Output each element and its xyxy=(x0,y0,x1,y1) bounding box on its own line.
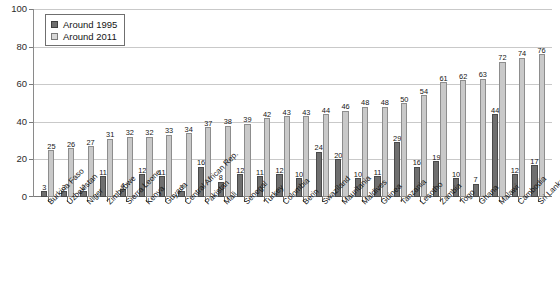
bar-around-2011: 33 xyxy=(166,135,172,197)
bar-group: 1961 xyxy=(430,9,450,197)
bar-value-label: 43 xyxy=(302,108,310,117)
bar-value-label: 11 xyxy=(374,168,382,177)
bar-value-label: 48 xyxy=(361,98,369,107)
bar-value-label: 61 xyxy=(439,74,447,83)
bar-value-label: 42 xyxy=(263,110,271,119)
bar-group: 4472 xyxy=(489,9,509,197)
bar-around-2011: 44 xyxy=(323,114,329,197)
y-tick-label: 100 xyxy=(0,3,27,14)
bar-around-2011: 63 xyxy=(480,79,486,197)
bar-group: 2950 xyxy=(391,9,411,197)
bar-value-label: 62 xyxy=(459,72,467,81)
bar-value-label: 26 xyxy=(67,140,75,149)
bar-value-label: 12 xyxy=(138,166,146,175)
bar-value-label: 44 xyxy=(491,106,499,115)
bar-value-label: 33 xyxy=(165,126,173,135)
bar-value-label: 16 xyxy=(197,158,205,167)
legend-swatch-dark-square-icon xyxy=(51,21,58,28)
bar-value-label: 10 xyxy=(452,170,460,179)
bar-group: 1043 xyxy=(293,9,313,197)
bar-value-label: 63 xyxy=(479,70,487,79)
bar-value-label: 7 xyxy=(474,175,478,184)
bar-value-label: 46 xyxy=(341,102,349,111)
bar-group: 1062 xyxy=(450,9,470,197)
bar-value-label: 11 xyxy=(99,168,107,177)
bar-around-2011: 62 xyxy=(460,80,466,197)
bar-value-label: 54 xyxy=(420,87,428,96)
chart-legend: Around 1995 Around 2011 xyxy=(45,14,125,46)
bar-around-2011: 72 xyxy=(499,62,505,197)
bar-group: 1637 xyxy=(195,9,215,197)
chart-figure: 100 80 60 40 20 0 3253263271131432123211… xyxy=(0,0,560,295)
bar-value-label: 44 xyxy=(322,106,330,115)
bar-group: 1232 xyxy=(136,9,156,197)
legend-label: Around 1995 xyxy=(63,19,117,30)
bar-value-label: 32 xyxy=(145,128,153,137)
legend-swatch-light-square-icon xyxy=(51,33,58,40)
bar-around-2011: 25 xyxy=(48,150,54,197)
bar-value-label: 32 xyxy=(126,128,134,137)
bar-value-label: 20 xyxy=(334,151,342,160)
bar-group: 1048 xyxy=(352,9,372,197)
bar-around-2011: 31 xyxy=(107,139,113,197)
legend-label: Around 2011 xyxy=(63,31,117,42)
bar-value-label: 12 xyxy=(236,166,244,175)
bar-value-label: 37 xyxy=(204,119,212,128)
bar-value-label: 24 xyxy=(315,143,323,152)
bar-value-label: 76 xyxy=(538,46,546,55)
bar-group: 1654 xyxy=(411,9,431,197)
bar-value-label: 11 xyxy=(256,168,264,177)
bar-around-2011: 74 xyxy=(519,58,525,197)
bar-group: 2046 xyxy=(332,9,352,197)
bar-value-label: 34 xyxy=(185,125,193,134)
bar-value-label: 27 xyxy=(86,138,94,147)
bar-around-2011: 43 xyxy=(284,116,290,197)
bar-group: 1148 xyxy=(371,9,391,197)
bar-value-label: 43 xyxy=(283,108,291,117)
y-tick-label: 0 xyxy=(0,191,27,202)
bar-around-2011: 50 xyxy=(401,103,407,197)
bar-group: 1243 xyxy=(273,9,293,197)
bar-value-label: 17 xyxy=(530,157,538,166)
bar-value-label: 16 xyxy=(413,158,421,167)
bar-value-label: 72 xyxy=(498,53,506,62)
bar-value-label: 38 xyxy=(224,117,232,126)
bar-value-label: 39 xyxy=(243,115,251,124)
bar-value-label: 3 xyxy=(42,183,46,192)
y-tick-label: 40 xyxy=(0,116,27,127)
bar-value-label: 12 xyxy=(275,166,283,175)
bar-value-label: 74 xyxy=(518,49,526,58)
bar-value-label: 50 xyxy=(400,95,408,104)
bar-group: 1239 xyxy=(234,9,254,197)
bar-value-label: 48 xyxy=(381,98,389,107)
bar-around-2011: 61 xyxy=(440,82,446,197)
bar-group: 763 xyxy=(469,9,489,197)
bar-value-label: 31 xyxy=(106,130,114,139)
bar-group: 1142 xyxy=(254,9,274,197)
x-axis-labels: Burkina FasoUzbekistanNigerZimbabweSierr… xyxy=(33,200,551,280)
bar-value-label: 25 xyxy=(47,142,55,151)
bar-around-1995: 12 xyxy=(237,174,243,197)
bar-group: 1274 xyxy=(509,9,529,197)
bar-group: 2444 xyxy=(313,9,333,197)
bar-group: 1776 xyxy=(528,9,548,197)
bar-group: 334 xyxy=(175,9,195,197)
legend-item-around-1995: Around 1995 xyxy=(51,18,117,30)
bar-value-label: 29 xyxy=(393,134,401,143)
bar-value-label: 12 xyxy=(511,166,519,175)
bar-value-label: 19 xyxy=(432,153,440,162)
legend-item-around-2011: Around 2011 xyxy=(51,30,117,42)
y-tick-label: 60 xyxy=(0,78,27,89)
bar-around-2011: 39 xyxy=(244,124,250,197)
y-tick-label: 80 xyxy=(0,41,27,52)
y-tick-label: 20 xyxy=(0,153,27,164)
